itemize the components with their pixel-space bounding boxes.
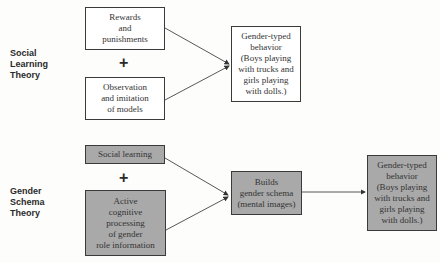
box-line: Active	[96, 196, 155, 207]
active-cognitive-processing-box: Active cognitive processing of gender ro…	[85, 190, 166, 256]
box-line: gender schema	[237, 188, 295, 199]
plus-sign: +	[119, 170, 128, 186]
box-line: Gender-typed	[374, 160, 430, 171]
box-line: Social learning	[98, 149, 152, 160]
box-line: processing	[96, 218, 155, 229]
box-line: (mental images)	[237, 199, 295, 210]
label-line: Theory	[10, 208, 45, 219]
label-line: Social	[10, 48, 48, 59]
box-line: punishments	[102, 34, 148, 45]
rewards-and-punishments-box: Rewards and punishments	[85, 7, 165, 50]
box-line: role information	[96, 240, 155, 251]
box-line: and imitation	[101, 93, 149, 104]
label-line: Gender	[10, 186, 45, 197]
box-line: Rewards	[102, 12, 148, 23]
box-line: (Boys playing	[238, 53, 294, 64]
gender-typed-behavior-box-slt: Gender-typed behavior (Boys playing with…	[231, 26, 301, 102]
box-line: girls playing	[374, 204, 430, 215]
box-line: (Boys playing	[374, 182, 430, 193]
box-line: girls playing	[238, 75, 294, 86]
box-line: behavior	[374, 171, 430, 182]
box-line: with trucks and	[374, 193, 430, 204]
builds-gender-schema-box: Builds gender schema (mental images)	[231, 171, 302, 215]
box-line: cognitive	[96, 207, 155, 218]
box-line: Builds	[237, 177, 295, 188]
theory-comparison-diagram: Social Learning Theory Rewards and punis…	[0, 0, 440, 263]
box-line: with dolls.)	[238, 86, 294, 97]
box-line: with trucks and	[238, 64, 294, 75]
box-line: of models	[101, 104, 149, 115]
box-line: behavior	[238, 42, 294, 53]
label-line: Schema	[10, 197, 45, 208]
social-learning-box: Social learning	[85, 145, 165, 164]
social-learning-theory-label: Social Learning Theory	[10, 48, 48, 81]
box-line: of gender	[96, 229, 155, 240]
observation-imitation-box: Observation and imitation of models	[85, 77, 165, 120]
box-line: and	[102, 23, 148, 34]
box-line: Gender-typed	[238, 31, 294, 42]
box-line: with dolls.)	[374, 215, 430, 226]
label-line: Theory	[10, 70, 48, 81]
label-line: Learning	[10, 59, 48, 70]
gender-typed-behavior-box-gst: Gender-typed behavior (Boys playing with…	[367, 155, 437, 231]
box-line: Observation	[101, 82, 149, 93]
plus-sign: +	[119, 55, 128, 71]
gender-schema-theory-label: Gender Schema Theory	[10, 186, 45, 219]
